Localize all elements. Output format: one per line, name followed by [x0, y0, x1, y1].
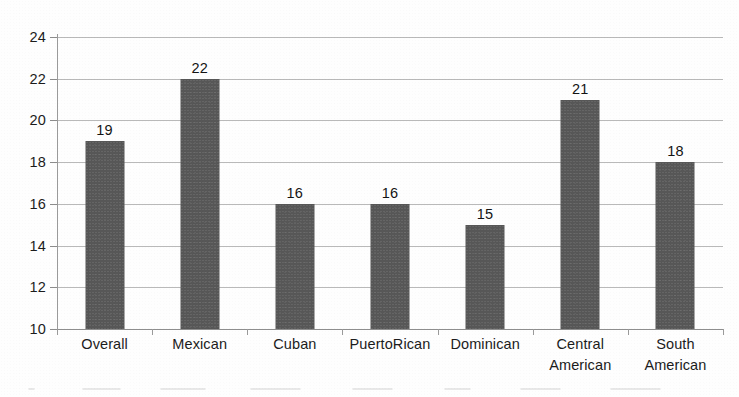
- bars-group: 19221616152118: [57, 37, 723, 329]
- bar-value-label: 16: [382, 185, 399, 201]
- x-axis-label: Cuban: [247, 334, 342, 375]
- bar-slot: 22: [152, 37, 247, 329]
- bar-slot: 18: [628, 37, 723, 329]
- bar-value-label: 22: [191, 60, 208, 76]
- y-tick-mark-14: [50, 246, 57, 247]
- x-tick-mark-4: [438, 329, 439, 335]
- x-axis-labels-group: OverallMexicanCubanPuertoRicanDominicanC…: [57, 334, 723, 375]
- bar[interactable]: [275, 204, 314, 329]
- x-tick-mark-2: [247, 329, 248, 335]
- y-tick-mark-10: [50, 329, 57, 330]
- bar[interactable]: [466, 225, 505, 329]
- y-tick-label-14: 14: [29, 238, 46, 254]
- y-tick-mark-12: [50, 287, 57, 288]
- x-tick-mark-3: [342, 329, 343, 335]
- y-axis-line: [57, 34, 58, 332]
- bar-value-label: 19: [96, 122, 113, 138]
- y-tick-label-12: 12: [29, 279, 46, 295]
- y-tick-label-16: 16: [29, 196, 46, 212]
- x-tick-mark-0: [57, 329, 58, 335]
- y-tick-label-24: 24: [29, 29, 46, 45]
- bar[interactable]: [656, 162, 695, 329]
- bar-value-label: 15: [477, 206, 494, 222]
- bar-slot: 19: [57, 37, 152, 329]
- x-tick-mark-6: [628, 329, 629, 335]
- bar[interactable]: [85, 141, 124, 329]
- x-axis-label: Mexican: [152, 334, 247, 375]
- y-tick-label-20: 20: [29, 112, 46, 128]
- x-axis-label: Dominican: [438, 334, 533, 375]
- x-axis-label-line: Central: [533, 334, 628, 355]
- y-tick-mark-18: [50, 162, 57, 163]
- y-tick-mark-16: [50, 204, 57, 205]
- x-axis-label: CentralAmerican: [533, 334, 628, 375]
- y-tick-mark-24: [50, 37, 57, 38]
- x-axis-label-line: American: [628, 355, 723, 376]
- x-axis-label: PuertoRican: [342, 334, 437, 375]
- scan-artifact-ghost-text: [0, 384, 739, 395]
- bar-slot: 21: [533, 37, 628, 329]
- plot-area: 1012141618202224 19221616152118: [57, 37, 723, 329]
- bar-slot: 16: [342, 37, 437, 329]
- x-tick-mark-5: [533, 329, 534, 335]
- x-axis-label-line: American: [533, 355, 628, 376]
- x-tick-mark-7: [723, 329, 724, 335]
- bar[interactable]: [180, 79, 219, 329]
- y-tick-mark-20: [50, 120, 57, 121]
- bar[interactable]: [561, 100, 600, 329]
- bar-slot: 16: [247, 37, 342, 329]
- x-axis-label-line: South: [628, 334, 723, 355]
- bar-slot: 15: [438, 37, 533, 329]
- y-tick-label-18: 18: [29, 154, 46, 170]
- y-tick-label-10: 10: [29, 321, 46, 337]
- bar-value-label: 21: [572, 81, 589, 97]
- x-axis-line: [57, 329, 718, 330]
- y-tick-mark-22: [50, 79, 57, 80]
- bar-chart-figure: 1012141618202224 19221616152118 OverallM…: [0, 0, 739, 397]
- x-axis-label: SouthAmerican: [628, 334, 723, 375]
- x-tick-mark-1: [152, 329, 153, 335]
- y-tick-label-22: 22: [29, 71, 46, 87]
- bar-value-label: 18: [667, 143, 684, 159]
- bar[interactable]: [370, 204, 409, 329]
- bar-value-label: 16: [287, 185, 304, 201]
- x-axis-label: Overall: [57, 334, 152, 375]
